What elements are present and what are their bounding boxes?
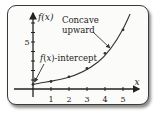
annotation-concave-line1: Concave (62, 15, 99, 25)
y-tick-label: 5 (24, 38, 29, 47)
x-tick-label: 5 (120, 95, 125, 104)
annotation-concave-line2: upward (62, 25, 95, 35)
annotation-concave-pointer (93, 32, 110, 48)
annotation-intercept-pointer (35, 64, 45, 82)
x-tick-label: 2 (66, 95, 71, 104)
x-tick-label: 1 (48, 95, 53, 104)
x-tick-label: 3 (84, 95, 89, 104)
x-tick-label: 4 (102, 95, 107, 104)
x-axis-label: x (134, 77, 139, 87)
y-axis-label: f(x) (37, 12, 54, 22)
chart-svg: 1 2 3 4 5 5 x f(x) Concave upward f(x)-i… (0, 0, 157, 113)
annotation-intercept: f(x)-intercept (39, 53, 97, 63)
